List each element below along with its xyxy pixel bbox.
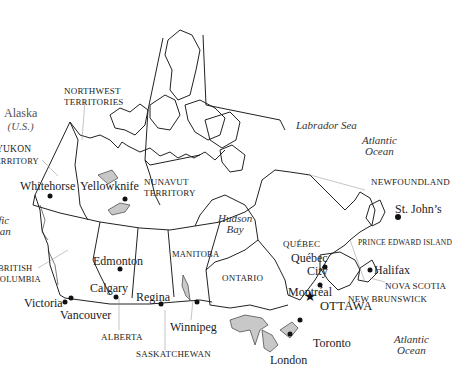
water-hudson-bay: Hudson Bay [218, 213, 252, 235]
city-ottawa: OTTAWA [320, 300, 373, 313]
lake-winnipeg [182, 275, 190, 300]
city-quebec-city: Québec City [291, 252, 328, 277]
city-montreal: Montréal [288, 286, 332, 298]
toronto-dot [298, 318, 303, 323]
region-alaska: Alaska (U.S.) [4, 107, 37, 132]
vancouver-dot [69, 296, 74, 301]
city-victoria: Victoria [24, 297, 63, 309]
water-atlantic-north: Atlantic Ocean [362, 135, 397, 157]
quebec-coast [255, 170, 375, 240]
victoria-dot [63, 300, 68, 305]
pacific-line2: Ocean [0, 226, 11, 237]
nunavut-line1: Nunavut [144, 178, 196, 187]
region-ontario: Ontario [222, 274, 263, 283]
region-alberta: Alberta [101, 333, 143, 342]
region-nova-scotia: Nova Scotia [385, 282, 446, 291]
city-edmonton: Edmonton [93, 255, 143, 267]
bc-line2: Columbia [0, 275, 41, 284]
city-regina: Regina [136, 291, 170, 303]
alaska-note: (U.S.) [4, 121, 37, 132]
bc-line1: British [0, 264, 41, 273]
great-slave-lake [108, 203, 130, 215]
water-labrador-sea: Labrador Sea [296, 120, 357, 131]
city-halifax: Halifax [374, 264, 410, 276]
city-vancouver: Vancouver [60, 309, 111, 321]
arctic-islands [110, 104, 148, 135]
city-london: London [270, 354, 307, 366]
quebec-city-line2: City [291, 265, 328, 277]
region-newfoundland: Newfoundland [371, 178, 450, 187]
region-nunavut: Nunavut Territory [144, 178, 196, 198]
nunavut-border [145, 38, 200, 165]
water-pacific: Pacific Ocean [0, 215, 11, 237]
region-yukon: Yukon Territory [0, 145, 39, 165]
atlantic-south-line2: Ocean [394, 345, 429, 356]
halifax-dot [368, 268, 373, 273]
region-bc: British Columbia [0, 264, 41, 283]
atlantic-north-line2: Ocean [362, 146, 397, 157]
hudson-bay-line2: Bay [218, 224, 252, 235]
whitehorse-dot [48, 194, 53, 199]
nunavut-line2: Territory [144, 189, 196, 198]
yellowknife-dot [123, 197, 128, 202]
region-quebec: Québec [283, 240, 320, 249]
city-winnipeg: Winnipeg [170, 321, 217, 333]
city-toronto: Toronto [313, 337, 351, 349]
region-manitoba: Manitoba [172, 250, 219, 259]
city-calgary: Calgary [90, 282, 128, 294]
nwt-line2: Territories [64, 98, 124, 107]
city-st-johns: St. John’s [395, 203, 442, 215]
london-dot [288, 332, 293, 337]
alaska-name: Alaska [4, 107, 37, 119]
city-whitehorse: Whitehorse [20, 180, 75, 192]
yukon-line1: Yukon [0, 145, 39, 155]
quebec-city-line1: Québec [291, 252, 328, 264]
city-yellowknife: Yellowknife [80, 180, 139, 192]
winnipeg-dot [195, 300, 200, 305]
region-pei: Prince Edward Island [358, 239, 452, 247]
calgary-dot [114, 295, 119, 300]
newfoundland-island [366, 200, 385, 226]
water-atlantic-south: Atlantic Ocean [394, 334, 429, 356]
arctic-coast [70, 122, 225, 160]
yukon-line2: Territory [0, 157, 39, 166]
region-nwt: Northwest Territories [64, 87, 124, 107]
nwt-line1: Northwest [64, 87, 124, 96]
region-saskatchewan: Saskatchewan [136, 350, 211, 359]
